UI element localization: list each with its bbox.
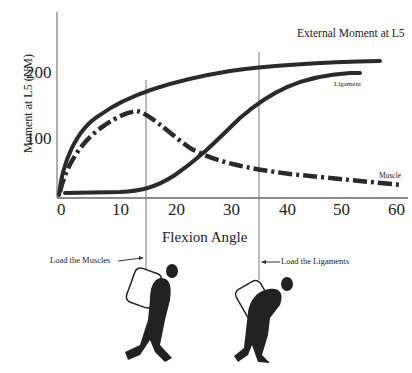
load-muscles-label: Load the Muscles: [50, 255, 110, 265]
x-tick-10: 10: [112, 200, 129, 220]
y-tick-100: 100: [26, 129, 52, 149]
x-tick-60: 60: [388, 200, 405, 220]
arrow-muscles: [118, 258, 142, 261]
load-ligaments-label: Load the Ligaments: [281, 256, 349, 266]
ligament-label: Ligament: [334, 80, 361, 88]
figure-load-muscles: [125, 264, 178, 362]
figure-load-ligaments: [233, 277, 293, 363]
x-tick-50: 50: [333, 200, 350, 220]
x-tick-20: 20: [168, 200, 185, 220]
external-moment-label: External Moment at L5: [297, 27, 405, 39]
x-tick-0: 0: [57, 200, 66, 220]
y-tick-200: 200: [26, 63, 52, 83]
chart-canvas: [0, 0, 412, 373]
external-moment-curve: [59, 61, 380, 195]
x-axis-label: Flexion Angle: [162, 229, 247, 246]
muscle-label: Muscle: [379, 171, 401, 180]
x-tick-40: 40: [279, 200, 296, 220]
muscle-curve: [60, 111, 402, 192]
x-tick-30: 30: [223, 200, 240, 220]
